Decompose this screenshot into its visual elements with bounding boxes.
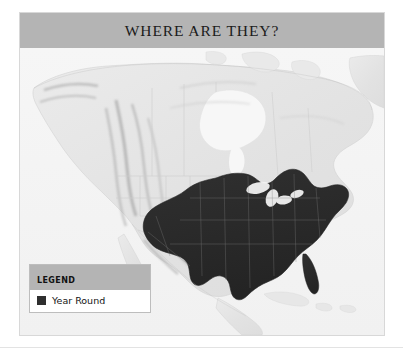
legend-swatch-icon <box>37 296 46 305</box>
page-title: WHERE ARE THEY? <box>125 22 279 40</box>
page-divider <box>0 347 403 348</box>
legend-header: LEGEND <box>30 265 150 290</box>
legend-body: Year Round <box>30 290 150 312</box>
legend-item-label: Year Round <box>52 295 105 306</box>
range-map-figure: WHERE ARE THEY? <box>19 12 385 336</box>
map-panel[interactable]: LEGEND Year Round <box>20 48 384 335</box>
legend-item-year-round[interactable]: Year Round <box>37 295 143 306</box>
figure-title-bar: WHERE ARE THEY? <box>20 13 384 48</box>
legend-title: LEGEND <box>37 276 75 285</box>
map-legend: LEGEND Year Round <box>29 264 151 313</box>
